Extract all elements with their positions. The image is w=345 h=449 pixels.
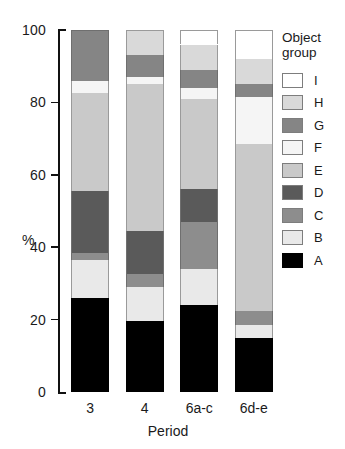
- bar-segment-4-F[interactable]: [126, 77, 164, 84]
- bar-segment-6a-c-I[interactable]: [180, 30, 218, 44]
- legend-label-E: E: [314, 164, 323, 177]
- legend-label-H: H: [314, 96, 323, 109]
- legend-label-A: A: [314, 254, 323, 267]
- bar-segment-6a-c-H[interactable]: [180, 45, 218, 70]
- legend-item-B[interactable]: B: [282, 227, 345, 250]
- legend: Object group IHGFEDCBA: [282, 30, 345, 272]
- bar-6d-e[interactable]: [235, 30, 273, 392]
- legend-label-G: G: [314, 119, 324, 132]
- legend-item-C[interactable]: C: [282, 204, 345, 227]
- legend-item-I[interactable]: I: [282, 69, 345, 92]
- bar-segment-6a-c-C[interactable]: [180, 222, 218, 269]
- legend-label-D: D: [314, 186, 323, 199]
- x-axis-tick-label-6a-c: 6a-c: [169, 400, 229, 416]
- legend-item-H[interactable]: H: [282, 92, 345, 115]
- bar-segment-3-F[interactable]: [71, 81, 109, 94]
- bar-segment-6d-e-F[interactable]: [235, 97, 273, 144]
- legend-item-F[interactable]: F: [282, 137, 345, 160]
- legend-item-D[interactable]: D: [282, 182, 345, 205]
- legend-swatch-A: [282, 253, 303, 268]
- legend-label-B: B: [314, 231, 323, 244]
- bar-segment-3-A[interactable]: [71, 298, 109, 392]
- bar-segment-6a-c-A[interactable]: [180, 305, 218, 392]
- bar-segment-6d-e-E[interactable]: [235, 144, 273, 311]
- y-axis-bottom-cap: [58, 392, 66, 394]
- legend-label-I: I: [314, 74, 318, 87]
- bar-segment-4-E[interactable]: [126, 84, 164, 231]
- legend-item-A[interactable]: A: [282, 249, 345, 272]
- y-axis-tick-label: 60: [30, 168, 46, 182]
- y-axis-tick: [51, 246, 59, 248]
- legend-swatch-F: [282, 140, 303, 155]
- bar-segment-6d-e-G[interactable]: [235, 84, 273, 97]
- y-axis-tick: [51, 174, 59, 176]
- legend-title-line-1: Object: [282, 30, 345, 45]
- y-axis-tick-label: 0: [38, 385, 46, 399]
- x-axis-tick-label-3: 3: [60, 400, 120, 416]
- bar-segment-3-G[interactable]: [71, 30, 109, 81]
- bar-3[interactable]: [71, 30, 109, 392]
- legend-label-C: C: [314, 209, 323, 222]
- bar-segment-6d-e-A[interactable]: [235, 338, 273, 392]
- bar-segment-4-H[interactable]: [126, 30, 164, 55]
- bar-segment-3-E[interactable]: [71, 93, 109, 191]
- legend-swatch-E: [282, 163, 303, 178]
- legend-item-G[interactable]: G: [282, 114, 345, 137]
- bar-segment-4-G[interactable]: [126, 55, 164, 77]
- y-axis-tick-label: 80: [30, 95, 46, 109]
- bar-4[interactable]: [126, 30, 164, 392]
- bar-segment-6a-c-F[interactable]: [180, 88, 218, 99]
- bar-6a-c[interactable]: [180, 30, 218, 392]
- x-axis-tick-label-6d-e: 6d-e: [224, 400, 284, 416]
- legend-swatch-G: [282, 118, 303, 133]
- legend-swatch-D: [282, 185, 303, 200]
- bar-segment-4-C[interactable]: [126, 274, 164, 287]
- bar-segment-4-A[interactable]: [126, 321, 164, 392]
- y-axis-tick: [51, 102, 59, 104]
- chart-figure: 020406080100 % 346a-c6d-e Period Object …: [0, 0, 345, 449]
- legend-swatch-B: [282, 230, 303, 245]
- bar-segment-6d-e-C[interactable]: [235, 311, 273, 325]
- y-axis-tick-label: 20: [30, 313, 46, 327]
- y-axis-tick-label: 100: [22, 23, 46, 37]
- y-axis-label: %: [22, 232, 34, 248]
- y-axis-tick: [51, 319, 59, 321]
- bar-segment-6a-c-D[interactable]: [180, 189, 218, 222]
- bar-segment-3-C[interactable]: [71, 253, 109, 260]
- bar-segment-6d-e-H[interactable]: [235, 59, 273, 84]
- legend-swatch-H: [282, 95, 303, 110]
- bar-segment-4-B[interactable]: [126, 287, 164, 321]
- bar-segment-6d-e-I[interactable]: [235, 30, 273, 59]
- plot-area: [59, 30, 277, 392]
- legend-title: Object group: [282, 30, 345, 60]
- bar-segment-6a-c-G[interactable]: [180, 70, 218, 88]
- x-axis-label: Period: [59, 423, 277, 439]
- legend-item-E[interactable]: E: [282, 159, 345, 182]
- legend-swatch-I: [282, 73, 303, 88]
- legend-title-line-2: group: [282, 45, 345, 60]
- bar-segment-6d-e-B[interactable]: [235, 325, 273, 338]
- legend-label-F: F: [314, 141, 322, 154]
- legend-items: IHGFEDCBA: [282, 69, 345, 272]
- bar-segment-3-D[interactable]: [71, 191, 109, 253]
- legend-swatch-C: [282, 208, 303, 223]
- bar-segment-4-D[interactable]: [126, 231, 164, 274]
- bar-segment-3-B[interactable]: [71, 260, 109, 298]
- bar-segment-6a-c-B[interactable]: [180, 269, 218, 305]
- x-axis-tick-label-4: 4: [115, 400, 175, 416]
- bar-segment-6a-c-E[interactable]: [180, 99, 218, 190]
